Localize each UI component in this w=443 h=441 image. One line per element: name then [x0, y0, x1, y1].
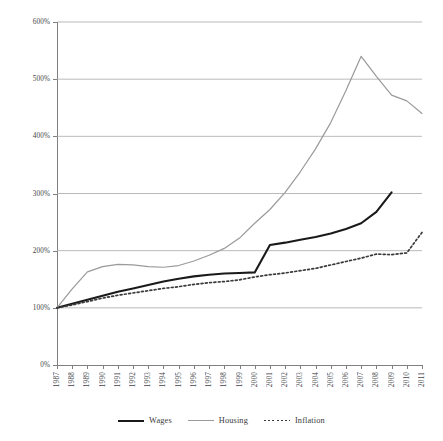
x-axis-tick-mark	[361, 365, 362, 369]
x-axis-tick-label: 1991	[114, 372, 122, 387]
x-axis-tick-label: 1992	[129, 372, 137, 387]
x-axis-tick-mark	[179, 365, 180, 369]
x-axis-tick-mark	[331, 365, 332, 369]
x-axis-tick-mark	[103, 365, 104, 369]
x-axis-tick-label: 1995	[175, 372, 183, 387]
x-axis-tick-label: 2001	[266, 372, 274, 387]
legend-item-wages[interactable]: Wages	[118, 416, 172, 425]
x-axis-tick-label: 1990	[99, 372, 107, 387]
legend-label-housing: Housing	[219, 416, 248, 425]
x-axis-tick-mark	[87, 365, 88, 369]
y-axis-tick-label: 100%	[2, 304, 50, 312]
x-axis-tick-label: 1987	[53, 372, 61, 387]
y-axis-tick-label: 300%	[2, 190, 50, 198]
x-axis-tick-label: 2008	[372, 372, 380, 387]
x-axis-tick-mark	[194, 365, 195, 369]
x-axis-tick-mark	[209, 365, 210, 369]
x-axis-tick-mark	[118, 365, 119, 369]
x-axis-tick-label: 1996	[190, 372, 198, 387]
y-axis-tick-label: 500%	[2, 75, 50, 83]
series-line-inflation	[57, 232, 422, 307]
x-axis-tick-label: 1997	[205, 372, 213, 387]
x-axis-tick-mark	[57, 365, 58, 369]
series-line-housing	[57, 56, 422, 308]
x-axis-tick-mark	[392, 365, 393, 369]
x-axis-tick-label: 1988	[68, 372, 76, 387]
x-axis-tick-mark	[255, 365, 256, 369]
x-axis-tick-mark	[163, 365, 164, 369]
x-axis-tick-mark	[270, 365, 271, 369]
x-axis-tick-label: 2011	[418, 372, 426, 387]
chart-legend: Wages Housing Inflation	[0, 416, 443, 425]
chart-container: 600%500%400%300%200%100%0% 1987198819891…	[0, 0, 443, 441]
legend-line-housing-icon	[188, 418, 214, 424]
data-series-layer	[57, 22, 422, 365]
y-axis-tick-label: 0%	[2, 361, 50, 369]
x-axis-tick-label: 1998	[220, 372, 228, 387]
x-axis-tick-label: 2010	[403, 372, 411, 387]
x-axis-tick-label: 1994	[159, 372, 167, 387]
x-axis-tick-label: 2003	[296, 372, 304, 387]
x-axis-tick-mark	[407, 365, 408, 369]
y-axis-labels: 600%500%400%300%200%100%0%	[0, 0, 50, 441]
x-axis-tick-label: 2005	[327, 372, 335, 387]
y-axis-tick-label: 400%	[2, 132, 50, 140]
x-axis-tick-mark	[224, 365, 225, 369]
legend-item-housing[interactable]: Housing	[188, 416, 248, 425]
legend-label-inflation: Inflation	[295, 416, 325, 425]
x-axis-tick-label: 2004	[312, 372, 320, 387]
x-axis-tick-mark	[316, 365, 317, 369]
legend-line-wages-icon	[118, 418, 144, 424]
x-axis-tick-label: 1989	[83, 372, 91, 387]
series-line-wages	[57, 192, 392, 307]
x-axis-tick-label: 2006	[342, 372, 350, 387]
x-axis-tick-mark	[240, 365, 241, 369]
x-axis-tick-mark	[285, 365, 286, 369]
x-axis-tick-mark	[148, 365, 149, 369]
x-axis-tick-label: 2002	[281, 372, 289, 387]
legend-label-wages: Wages	[149, 416, 172, 425]
y-axis-tick-label: 200%	[2, 247, 50, 255]
x-axis-tick-label: 2007	[357, 372, 365, 387]
x-axis-tick-mark	[133, 365, 134, 369]
x-axis-tick-mark	[346, 365, 347, 369]
x-axis-tick-label: 2000	[251, 372, 259, 387]
plot-area	[57, 22, 422, 365]
x-axis-tick-label: 1999	[236, 372, 244, 387]
x-axis-tick-mark	[300, 365, 301, 369]
y-axis-tick-label: 600%	[2, 18, 50, 26]
x-axis-tick-mark	[376, 365, 377, 369]
legend-item-inflation[interactable]: Inflation	[264, 416, 325, 425]
x-axis-tick-label: 1993	[144, 372, 152, 387]
legend-line-inflation-icon	[264, 418, 290, 424]
x-axis-tick-mark	[72, 365, 73, 369]
x-axis-tick-mark	[422, 365, 423, 369]
x-axis-tick-label: 2009	[388, 372, 396, 387]
